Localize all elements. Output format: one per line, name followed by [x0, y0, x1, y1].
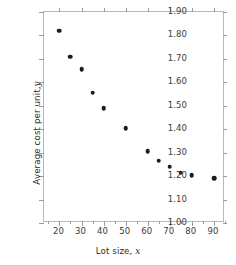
- x-axis-tick-label: 90: [207, 226, 218, 236]
- x-axis-tick-label: 20: [53, 226, 64, 236]
- y-axis-tick-right: [223, 12, 227, 13]
- y-axis-tick-label: 1.30: [168, 147, 187, 157]
- y-axis-tick-right: [223, 59, 227, 60]
- y-axis-tick-label: 1.70: [168, 53, 187, 63]
- x-axis-tick-label: 50: [119, 226, 130, 236]
- x-axis-minor-tick: [93, 221, 94, 224]
- x-axis-tick-top: [82, 8, 83, 12]
- y-axis-tick-label: 1.10: [168, 194, 187, 204]
- x-axis-tick-top: [126, 8, 127, 12]
- x-axis-tick-label: 40: [97, 226, 108, 236]
- data-point: [212, 176, 217, 181]
- scatter-plot-figure: Average cost per unit,y Lot size, x 1.00…: [0, 0, 236, 265]
- y-axis-title: Average cost per unit,y: [32, 53, 42, 213]
- data-point: [68, 54, 73, 59]
- x-axis-minor-tick: [225, 221, 226, 224]
- data-point: [168, 164, 173, 169]
- x-axis-title-variable: x: [135, 246, 140, 256]
- y-axis-tick-right: [223, 153, 227, 154]
- data-point: [156, 159, 161, 164]
- y-axis-title-text: Average cost per unit,: [32, 86, 42, 184]
- data-point: [190, 173, 195, 178]
- data-point: [90, 91, 95, 96]
- y-axis-title-variable: y: [32, 81, 42, 86]
- data-point: [79, 67, 84, 72]
- x-axis-title-text: Lot size,: [96, 246, 133, 256]
- x-axis-tick-label: 60: [141, 226, 152, 236]
- y-axis-tick: [39, 12, 44, 13]
- y-axis-tick-right: [223, 82, 227, 83]
- x-axis-tick-label: 80: [185, 226, 196, 236]
- data-point: [101, 106, 106, 111]
- y-axis-tick: [39, 35, 44, 36]
- data-point: [57, 28, 62, 33]
- x-axis-minor-tick: [48, 221, 49, 224]
- y-axis-tick-label: 1.80: [168, 29, 187, 39]
- x-axis-tick-top: [59, 8, 60, 12]
- y-axis-tick-label: 1.40: [168, 123, 187, 133]
- y-axis-tick: [39, 223, 44, 224]
- y-axis-tick-label: 1.50: [168, 100, 187, 110]
- x-axis-minor-tick: [137, 221, 138, 224]
- x-axis-tick-top: [148, 8, 149, 12]
- x-axis-minor-tick: [203, 221, 204, 224]
- x-axis-tick-top: [104, 8, 105, 12]
- x-axis-tick-top: [192, 8, 193, 12]
- y-axis-tick-label: 1.60: [168, 76, 187, 86]
- x-axis-tick-label: 70: [163, 226, 174, 236]
- x-axis-minor-tick: [159, 221, 160, 224]
- data-point: [123, 126, 128, 131]
- y-axis-tick-label: 1.20: [168, 170, 187, 180]
- y-axis-tick-label: 1.90: [168, 6, 187, 16]
- plot-area: [43, 11, 224, 222]
- x-axis-tick-label: 30: [75, 226, 86, 236]
- y-axis-tick-right: [223, 200, 227, 201]
- x-axis-minor-tick: [115, 221, 116, 224]
- y-axis-tick-right: [223, 35, 227, 36]
- y-axis-tick-right: [223, 129, 227, 130]
- y-axis-tick-right: [223, 176, 227, 177]
- x-axis-title: Lot size, x: [0, 246, 236, 256]
- x-axis-minor-tick: [70, 221, 71, 224]
- data-point: [145, 149, 150, 154]
- x-axis-tick-top: [214, 8, 215, 12]
- y-axis-tick-right: [223, 106, 227, 107]
